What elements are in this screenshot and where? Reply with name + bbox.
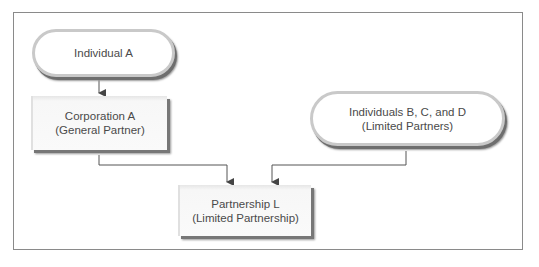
node-label: Partnership L <box>211 197 279 211</box>
edge-individuals-bcd-to-partnership-l <box>272 151 406 182</box>
node-label: Corporation A <box>65 109 135 123</box>
node-individuals-bcd: Individuals B, C, and D (Limited Partner… <box>310 91 505 146</box>
edge-corporation-a-to-partnership-l <box>99 155 227 182</box>
node-label: Individual A <box>74 46 133 60</box>
node-corporation-a: Corporation A (General Partner) <box>31 96 167 150</box>
node-sublabel: (General Partner) <box>55 123 144 137</box>
node-sublabel: (Limited Partners) <box>362 119 453 133</box>
node-partnership-l: Partnership L (Limited Partnership) <box>178 185 311 236</box>
node-individual-a: Individual A <box>32 29 175 77</box>
node-label: Individuals B, C, and D <box>349 105 466 119</box>
node-sublabel: (Limited Partnership) <box>192 211 299 225</box>
